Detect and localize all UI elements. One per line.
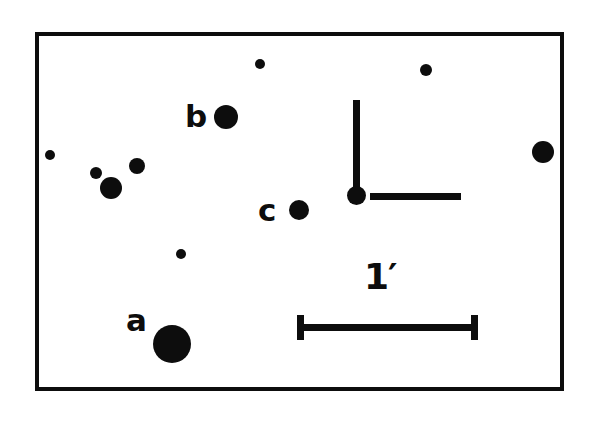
source-marker-a bbox=[153, 325, 191, 363]
scale-bar-label: 1′ bbox=[364, 259, 397, 295]
source-label-a: a bbox=[126, 305, 147, 336]
scale-bar-right-cap bbox=[471, 315, 478, 340]
source-marker-s5 bbox=[45, 150, 55, 160]
compass-origin-dot bbox=[347, 186, 366, 205]
compass-north-arm bbox=[353, 100, 360, 190]
source-marker-s2 bbox=[420, 64, 432, 76]
figure-root: bca 1′ bbox=[0, 0, 598, 428]
source-label-c: c bbox=[258, 195, 276, 226]
source-marker-s1 bbox=[255, 59, 265, 69]
scale-bar-line bbox=[297, 324, 478, 331]
source-marker-b bbox=[214, 105, 238, 129]
source-marker-s10 bbox=[176, 249, 186, 259]
source-marker-s4 bbox=[532, 141, 554, 163]
source-marker-c bbox=[289, 200, 309, 220]
scale-bar-left-cap bbox=[297, 315, 304, 340]
source-marker-s7 bbox=[90, 167, 102, 179]
compass-east-arm bbox=[370, 193, 461, 200]
source-marker-s8 bbox=[100, 177, 122, 199]
source-marker-s6 bbox=[129, 158, 145, 174]
source-label-b: b bbox=[185, 101, 207, 132]
